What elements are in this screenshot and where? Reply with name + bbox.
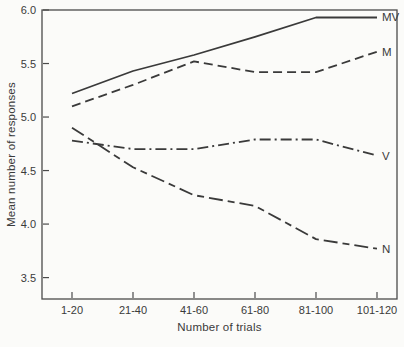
- series-label-n: N: [382, 243, 390, 255]
- series-line-n: [72, 128, 377, 249]
- y-axis-title: Mean number of responses: [5, 47, 20, 263]
- figure-canvas: 6.05.55.04.54.03.51-2021-4041-6061-8081-…: [0, 0, 404, 347]
- x-axis-tick-label: 41-60: [180, 304, 208, 316]
- line-chart: 6.05.55.04.54.03.51-2021-4041-6061-8081-…: [0, 0, 404, 347]
- series-line-v: [72, 140, 377, 156]
- y-axis-tick-label: 5.5: [21, 58, 36, 70]
- x-axis-tick-label: 1-20: [61, 304, 83, 316]
- series-label-v: V: [382, 150, 390, 162]
- y-axis-tick-label: 4.5: [21, 165, 36, 177]
- x-axis-tick-label: 61-80: [241, 304, 269, 316]
- y-axis-tick-label: 6.0: [21, 4, 36, 16]
- x-axis-tick-label: 101-120: [357, 304, 397, 316]
- series-line-m: [72, 52, 377, 107]
- y-axis-tick-label: 5.0: [21, 111, 36, 123]
- series-label-m: M: [382, 46, 392, 58]
- y-axis-tick-label: 4.0: [21, 218, 36, 230]
- plot-border: [42, 10, 397, 299]
- series-line-mv: [72, 18, 377, 94]
- series-label-mv: MV: [382, 11, 400, 23]
- x-axis-tick-label: 21-40: [119, 304, 147, 316]
- x-axis-title: Number of trials: [42, 321, 397, 333]
- x-axis-tick-label: 81-100: [299, 304, 333, 316]
- y-axis-tick-label: 3.5: [21, 272, 36, 284]
